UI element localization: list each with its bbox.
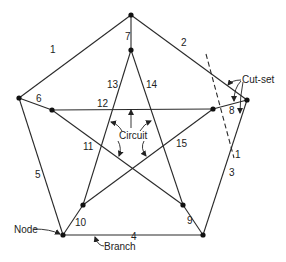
branch-label-12: 12: [97, 98, 109, 109]
branch-label-11: 11: [83, 141, 94, 152]
branch-14: [131, 50, 183, 205]
node-A: [128, 12, 133, 17]
branch-label-13: 13: [107, 79, 119, 90]
node-d: [80, 202, 85, 207]
branch-9: [183, 205, 203, 235]
cut-line-label: 1: [235, 149, 241, 160]
branch-12: [52, 109, 213, 110]
branch-label-4: 4: [131, 231, 137, 242]
node-E: [200, 232, 205, 237]
branch-3: [203, 100, 247, 235]
branch-label-7: 7: [125, 31, 131, 42]
branch-label-6: 6: [36, 93, 42, 104]
graph-diagram: 1 Cut-set Circuit Node Branch 1234567891…: [0, 0, 286, 262]
circuit-label: Circuit: [119, 130, 148, 141]
cut-set-label: Cut-set: [242, 74, 274, 85]
branch-15: [83, 109, 213, 205]
node-c: [210, 106, 215, 111]
branch-arrow: [95, 237, 104, 246]
node-C: [244, 97, 249, 102]
branch-label: Branch: [104, 241, 136, 252]
branch-label-9: 9: [187, 215, 193, 226]
branch-label-2: 2: [181, 37, 187, 48]
node-a: [128, 47, 133, 52]
branch-label-3: 3: [229, 167, 235, 178]
branch-label-15: 15: [176, 138, 188, 149]
branch-label-1: 1: [50, 44, 56, 55]
branch-11: [52, 110, 183, 205]
branch-label-5: 5: [35, 169, 41, 180]
node-B: [16, 95, 21, 100]
branch-label-8: 8: [229, 105, 235, 116]
branch-5: [19, 98, 63, 235]
node-e: [180, 202, 185, 207]
node-b: [49, 107, 54, 112]
branch-13: [83, 50, 131, 205]
branch-label-10: 10: [75, 217, 87, 228]
node-label: Node: [14, 224, 38, 235]
branch-label-14: 14: [146, 79, 158, 90]
node-D: [60, 232, 65, 237]
